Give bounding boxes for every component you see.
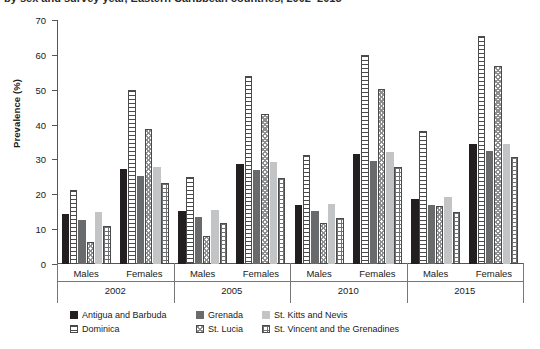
bar-cluster [348, 20, 406, 264]
legend-item: St. Lucia [196, 324, 243, 334]
bar [261, 114, 268, 264]
bar-cluster [57, 20, 115, 264]
bar [511, 157, 518, 264]
bar [353, 154, 360, 264]
x-axis-sex-label: Females [465, 268, 523, 279]
bar [153, 167, 160, 264]
bar [478, 36, 485, 264]
x-axis-year-label: 2010 [290, 285, 407, 296]
y-axis-tick-label: 20 [0, 189, 46, 200]
bar-cluster [290, 20, 348, 264]
x-axis-year-separator [523, 263, 524, 303]
bar [436, 206, 443, 264]
legend-swatch-icon [196, 311, 204, 319]
legend-item: Grenada [196, 310, 243, 320]
bar [336, 218, 343, 264]
bar [220, 223, 227, 264]
x-axis-sex-label: Females [115, 268, 173, 279]
x-axis-year-separator [174, 263, 175, 303]
bar [444, 197, 451, 264]
bar [70, 190, 77, 264]
bar [62, 214, 69, 264]
bar-cluster [465, 20, 523, 264]
bar [486, 151, 493, 264]
bar [270, 162, 277, 264]
x-axis-year-label: 2015 [407, 285, 524, 296]
bar [236, 164, 243, 264]
x-axis-year-separator [57, 263, 58, 303]
bar [469, 144, 476, 264]
bar [78, 220, 85, 264]
x-axis-year-label: 2002 [57, 285, 174, 296]
bar [203, 236, 210, 264]
bar-cluster [232, 20, 290, 264]
bar [386, 152, 393, 264]
bar [311, 211, 318, 264]
x-axis-sex-label: Males [174, 268, 232, 279]
chart-legend: Antigua and BarbudaGrenadaSt. Kitts and … [70, 310, 470, 338]
bar [161, 183, 168, 264]
legend-item: Dominica [70, 324, 120, 334]
bar [419, 131, 426, 265]
legend-row-1: Antigua and BarbudaGrenadaSt. Kitts and … [70, 310, 470, 324]
bar [145, 129, 152, 264]
legend-item: St. Vincent and the Grenadines [262, 324, 399, 334]
x-axis-sex-label: Males [57, 268, 115, 279]
legend-item-label: Antigua and Barbuda [82, 310, 167, 320]
bar [453, 212, 460, 264]
legend-swatch-icon [262, 311, 270, 319]
bar [370, 161, 377, 264]
bar [494, 66, 501, 264]
y-axis-tick-label: 60 [0, 49, 46, 60]
bar-cluster [407, 20, 465, 264]
y-axis-tick-label: 0 [0, 259, 46, 270]
legend-swatch-icon [262, 325, 270, 333]
plot-area [57, 20, 523, 264]
bar [245, 76, 252, 264]
legend-item-label: Grenada [208, 310, 243, 320]
bar [328, 204, 335, 264]
x-axis-year-label: 2005 [174, 285, 291, 296]
y-axis-tick-label: 30 [0, 154, 46, 165]
bar [411, 199, 418, 264]
legend-item: Antigua and Barbuda [70, 310, 167, 320]
bar [95, 212, 102, 264]
bar [303, 155, 310, 264]
bar [87, 242, 94, 264]
bar-chart-figure: Prevalence (%) 010203040506070 MalesFema… [0, 0, 540, 349]
bar [211, 210, 218, 264]
bar [428, 205, 435, 264]
x-axis-sex-label: Males [290, 268, 348, 279]
bar [278, 178, 285, 264]
legend-item-label: St. Kitts and Nevis [274, 310, 348, 320]
legend-swatch-icon [196, 325, 204, 333]
y-axis-tick-label: 70 [0, 15, 46, 26]
bar [253, 170, 260, 264]
bar [295, 205, 302, 264]
legend-swatch-icon [70, 311, 78, 319]
bar-cluster [174, 20, 232, 264]
bar [320, 223, 327, 264]
bar-cluster [115, 20, 173, 264]
bar [361, 55, 368, 264]
bar [128, 90, 135, 264]
x-axis-year-separator [290, 263, 291, 303]
bar [178, 211, 185, 264]
y-axis-tick-label: 50 [0, 84, 46, 95]
x-axis-sex-label: Females [348, 268, 406, 279]
bar [137, 176, 144, 264]
legend-row-2: DominicaSt. LuciaSt. Vincent and the Gre… [70, 324, 470, 338]
x-axis-sex-label: Females [232, 268, 290, 279]
legend-item: St. Kitts and Nevis [262, 310, 348, 320]
legend-item-label: St. Lucia [208, 324, 243, 334]
legend-swatch-icon [70, 325, 78, 333]
bar [103, 226, 110, 264]
legend-item-label: St. Vincent and the Grenadines [274, 324, 399, 334]
x-axis-year-separator [407, 263, 408, 303]
bar [195, 217, 202, 264]
bar [186, 177, 193, 264]
x-axis-sex-label: Males [407, 268, 465, 279]
bar [503, 144, 510, 264]
y-axis-tick-label: 40 [0, 119, 46, 130]
bar [378, 89, 385, 264]
